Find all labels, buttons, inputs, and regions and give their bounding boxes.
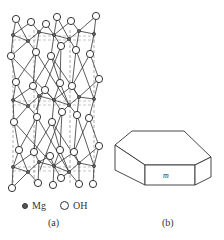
legend-mg-label: Mg bbox=[32, 200, 46, 211]
legend-oh-label: OH bbox=[73, 200, 87, 211]
caption-b: (b) bbox=[162, 217, 174, 228]
oh-legend-icon bbox=[60, 201, 69, 210]
crystal-structure bbox=[11, 16, 99, 188]
face-label-m: m bbox=[163, 171, 169, 180]
legend: Mg OH bbox=[22, 200, 87, 211]
mg-legend-icon bbox=[22, 203, 28, 209]
mg-atoms bbox=[11, 29, 95, 173]
caption-a: (a) bbox=[48, 217, 59, 228]
